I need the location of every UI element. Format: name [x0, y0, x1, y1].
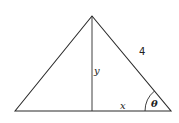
- altitude-label: y: [93, 65, 100, 76]
- triangle-diagram: 4 y x θ: [0, 0, 179, 123]
- hypotenuse-label: 4: [139, 46, 145, 57]
- half-base-label: x: [120, 100, 126, 111]
- angle-theta-label: θ: [151, 98, 158, 109]
- triangle-outline: [15, 16, 171, 111]
